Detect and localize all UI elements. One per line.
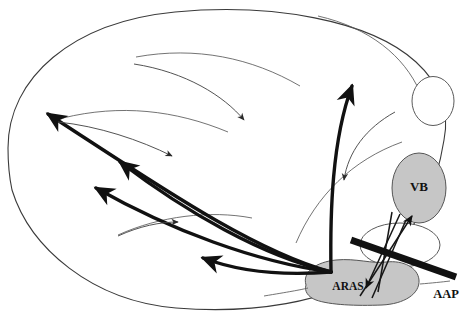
- occipital-ellipse: [412, 77, 454, 126]
- cortical-contour-lines: [63, 16, 420, 243]
- aras-projection-arrows: [48, 86, 352, 273]
- aap-label: AAP: [433, 287, 459, 301]
- brain-schematic-svg: ARAS VB AAP: [0, 0, 468, 317]
- figure-canvas: ARAS VB AAP: [0, 0, 468, 317]
- aras-label: ARAS: [332, 280, 363, 292]
- vb-label: VB: [410, 179, 428, 194]
- corticofugal-arrows: [58, 64, 395, 236]
